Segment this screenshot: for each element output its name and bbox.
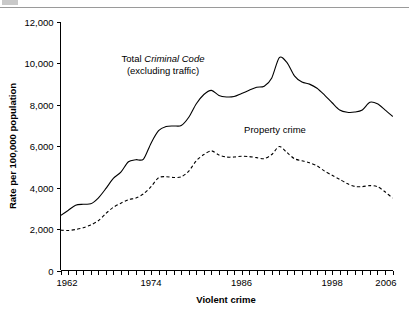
x-axis-ticks xyxy=(62,271,394,275)
x-tick-label-1998: 1998 xyxy=(322,277,343,288)
x-tick-label-1986: 1986 xyxy=(231,277,252,288)
y-tick-label-6000: 6,000 xyxy=(30,141,54,152)
y-tick-label-4000: 4,000 xyxy=(30,183,54,194)
y-tick-label-8000: 8,000 xyxy=(30,100,54,111)
y-axis-title: Rate per 100,000 population xyxy=(7,83,18,209)
y-axis-tick-labels: 02,0004,0006,0008,00010,00012,000 xyxy=(24,17,53,277)
page-artifact-crumb xyxy=(2,0,18,5)
y-tick-label-2000: 2,000 xyxy=(30,224,54,235)
y-axis-ticks xyxy=(57,23,61,272)
crime-rate-line-chart: 02,0004,0006,0008,00010,00012,000 196219… xyxy=(0,0,409,310)
series-line-property-crime xyxy=(61,146,393,230)
series-line-total-criminal-code xyxy=(61,57,393,216)
x-axis-tick-labels: 19621974198619982006 xyxy=(57,277,397,288)
x-tick-label-1962: 1962 xyxy=(57,277,78,288)
chart-canvas: 02,0004,0006,0008,00010,00012,000 196219… xyxy=(0,0,409,310)
total-criminal-code-annotation: Total Criminal Code xyxy=(122,53,205,64)
top-divider-rule xyxy=(0,7,409,8)
x-tick-label-2006: 2006 xyxy=(375,277,396,288)
y-tick-label-10000: 10,000 xyxy=(24,58,53,69)
x-axis-title: Violent crime xyxy=(196,294,256,305)
x-tick-label-1974: 1974 xyxy=(140,277,161,288)
property-crime-annotation: Property crime xyxy=(244,124,306,135)
y-tick-label-12000: 12,000 xyxy=(24,17,53,28)
total-criminal-code-annotation-line2: (excluding traffic) xyxy=(127,65,199,76)
y-tick-label-0: 0 xyxy=(48,266,53,277)
